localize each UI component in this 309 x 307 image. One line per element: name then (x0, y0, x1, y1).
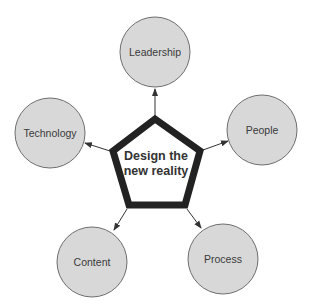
node-leadership: Leadership (120, 17, 190, 87)
center-label-line2: new reality (124, 164, 189, 178)
node-technology: Technology (15, 98, 85, 168)
node-content: Content (57, 227, 127, 297)
node-process: Process (188, 224, 258, 294)
center-label-line1: Design the (124, 149, 188, 163)
node-label-people: People (246, 124, 279, 136)
node-people: People (227, 95, 297, 165)
node-label-leadership: Leadership (129, 46, 181, 58)
arrow-to-content (114, 209, 127, 230)
radial-diagram: Design the new reality Leadership People… (0, 0, 309, 307)
node-label-process: Process (204, 253, 242, 265)
arrow-to-process (187, 209, 201, 228)
node-label-technology: Technology (23, 127, 77, 139)
node-label-content: Content (74, 256, 111, 268)
arrow-to-people (203, 141, 228, 150)
arrow-to-technology (85, 143, 110, 151)
